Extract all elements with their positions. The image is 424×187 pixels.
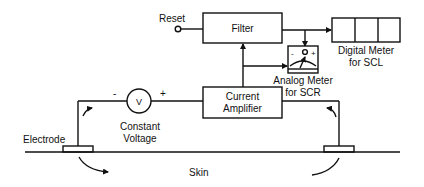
left-current-arrow-icon — [83, 108, 92, 116]
voltage-label-1: Constant — [120, 121, 160, 132]
right-electrode — [324, 146, 354, 152]
left-electrode — [63, 146, 93, 152]
analog-meter-label-1: Analog Meter — [273, 75, 333, 86]
voltage-plus: + — [160, 88, 166, 99]
voltage-symbol: V — [136, 97, 142, 107]
right-current-arrow-icon — [327, 108, 336, 117]
skin-current-arrow-right-icon — [312, 158, 339, 175]
reset-label: Reset — [159, 13, 185, 24]
current-amplifier-block: Current Amplifier — [203, 87, 282, 118]
digital-meter: Digital Meter for SCL — [332, 18, 400, 68]
constant-voltage-source: V - + Constant Voltage — [78, 88, 203, 144]
digital-meter-box — [332, 18, 400, 42]
reset-terminal-icon — [175, 26, 181, 32]
analog-meter-minus: - — [291, 49, 294, 58]
analog-meter-plus: + — [311, 49, 316, 58]
reset-terminal: Reset — [159, 13, 203, 32]
voltage-minus: - — [113, 88, 116, 99]
skin-current-arrow-left-icon — [79, 157, 108, 172]
skin-conductance-block-diagram: Reset Filter Digital Meter for SCL - + A… — [0, 0, 424, 187]
voltage-label-2: Voltage — [123, 133, 157, 144]
current-amplifier-label-1: Current — [226, 91, 260, 102]
skin-label: Skin — [189, 167, 208, 178]
analog-meter-label-2: for SCR — [285, 87, 321, 98]
current-amplifier-label-2: Amplifier — [223, 103, 263, 114]
electrode-label: Electrode — [23, 134, 66, 145]
digital-meter-label-2: for SCL — [349, 57, 383, 68]
filter-block: Filter — [203, 13, 282, 43]
digital-meter-label-1: Digital Meter — [338, 45, 395, 56]
filter-label: Filter — [231, 23, 254, 34]
